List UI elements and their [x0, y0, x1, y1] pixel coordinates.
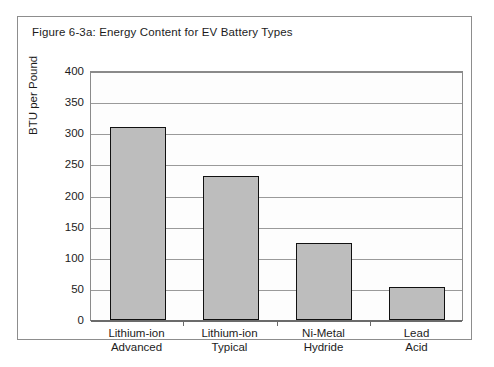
bars-layer — [91, 72, 462, 320]
x-label-line2: Advanced — [90, 341, 183, 355]
y-tick-label-400: 400 — [44, 65, 84, 77]
x-label-3: LeadAcid — [370, 327, 463, 354]
x-tick-2 — [370, 321, 371, 326]
x-label-2: Ni-MetalHydride — [277, 327, 370, 354]
x-tick-1 — [277, 321, 278, 326]
x-label-line2: Acid — [370, 341, 463, 355]
x-label-1: Lithium-ionTypical — [183, 327, 276, 354]
x-label-0: Lithium-ionAdvanced — [90, 327, 183, 354]
y-tick-label-150: 150 — [44, 221, 84, 233]
x-label-line1: Lithium-ion — [108, 327, 164, 339]
y-axis-tick-labels: 400350300250200150100500 — [40, 71, 84, 321]
x-label-line1: Lithium-ion — [201, 327, 257, 339]
x-label-line1: Ni-Metal — [302, 327, 345, 339]
bar-0 — [110, 127, 166, 320]
y-tick-label-200: 200 — [44, 190, 84, 202]
plot-area — [90, 71, 463, 321]
y-tick-label-50: 50 — [44, 283, 84, 295]
y-tick-label-300: 300 — [44, 127, 84, 139]
bar-3 — [389, 287, 445, 320]
y-tick-label-350: 350 — [44, 96, 84, 108]
y-tick-label-100: 100 — [44, 252, 84, 264]
bar-1 — [203, 176, 259, 320]
x-label-line2: Typical — [183, 341, 276, 355]
x-label-line2: Hydride — [277, 341, 370, 355]
page-title: Figure 6-3a: Energy Content for EV Batte… — [32, 26, 293, 38]
x-label-line1: Lead — [404, 327, 430, 339]
y-tick-label-0: 0 — [44, 314, 84, 326]
page-background — [0, 0, 494, 12]
bar-2 — [296, 243, 352, 320]
figure-frame: Figure 6-3a: Energy Content for EV Batte… — [17, 16, 472, 340]
x-tick-0 — [183, 321, 184, 326]
y-tick-label-250: 250 — [44, 158, 84, 170]
x-axis-category-labels: Lithium-ionAdvancedLithium-ionTypicalNi-… — [90, 327, 463, 361]
y-axis-title: BTU per Pound — [27, 15, 39, 135]
